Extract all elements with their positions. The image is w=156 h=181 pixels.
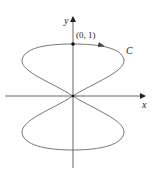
x-axis-label: x [141,99,147,110]
origin-point [72,95,75,98]
curve-label: C [126,45,133,56]
y-axis-label: y [63,15,69,26]
diagram-canvas: y (0, 1) C x [0,0,156,181]
point-label: (0, 1) [76,30,96,40]
point-0-1 [71,42,75,46]
